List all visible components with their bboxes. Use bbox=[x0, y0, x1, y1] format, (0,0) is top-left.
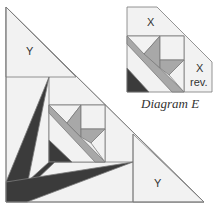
diagram-caption: Diagram E bbox=[140, 96, 199, 111]
x-top-label: X bbox=[147, 16, 155, 28]
quilt-diagram: Y Y X X rev. Diagram E bbox=[0, 0, 217, 210]
y-top-label: Y bbox=[26, 45, 34, 57]
x-rev-label-rev: rev. bbox=[190, 76, 208, 88]
x-rev-label-x: X bbox=[196, 62, 204, 74]
inner-flower-block bbox=[49, 105, 105, 162]
y-bottom-label: Y bbox=[154, 177, 162, 189]
